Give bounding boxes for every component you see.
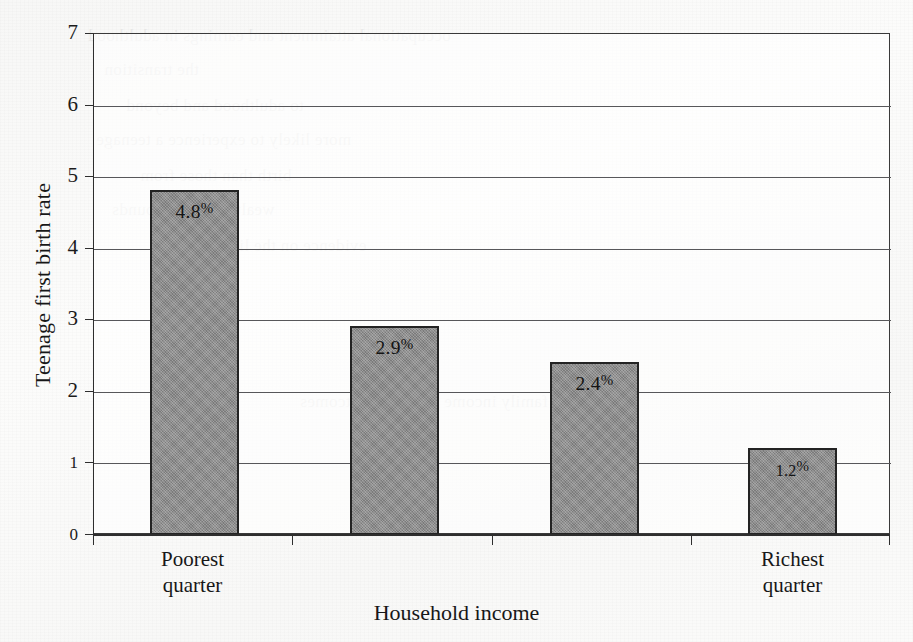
x-tick-mark-1 <box>292 534 293 545</box>
gridline-5 <box>94 177 891 178</box>
y-tick-mark-5 <box>85 176 94 177</box>
y-tick-label-0: 0 <box>44 526 78 543</box>
y-tick-mark-6 <box>85 105 94 106</box>
y-axis-line <box>93 33 94 534</box>
bar-value-label-3: 1.2% <box>750 459 835 480</box>
bar-poorest-quarter: 4.8% <box>150 190 239 535</box>
bar-value-label-1: 2.9% <box>352 337 437 358</box>
y-tick-mark-4 <box>85 248 94 249</box>
bar-value-label-0: 4.8% <box>152 201 237 222</box>
y-tick-mark-1 <box>85 462 94 463</box>
y-axis-title: Teenage first birth rate <box>30 50 56 520</box>
bar-second-quarter: 2.9% <box>350 326 439 535</box>
y-tick-mark-3 <box>85 319 94 320</box>
x-tick-mark-3 <box>691 534 692 545</box>
x-category-label-richest: Richest quarter <box>705 547 880 598</box>
y-tick-mark-2 <box>85 391 94 392</box>
gridline-6 <box>94 106 891 107</box>
y-tick-label-7: 7 <box>44 22 78 43</box>
bar-value-label-2: 2.4% <box>552 373 637 394</box>
x-axis-title: Household income <box>0 600 913 626</box>
bar-third-quarter: 2.4% <box>550 362 639 535</box>
x-tick-mark-2 <box>492 534 493 545</box>
x-tick-mark-4 <box>889 534 890 545</box>
y-tick-mark-7 <box>85 33 94 34</box>
x-category-label-poorest: Poorest quarter <box>105 547 280 598</box>
scanned-chart-page: occupational attainment and earnings in … <box>0 0 913 642</box>
bar-richest-quarter: 1.2% <box>748 448 837 535</box>
x-tick-mark-0 <box>93 534 94 545</box>
